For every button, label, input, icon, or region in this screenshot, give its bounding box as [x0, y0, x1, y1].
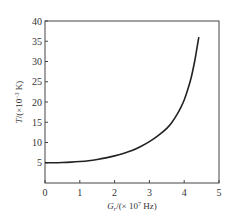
x-axis-label: Gr/(× 107 Hz): [107, 201, 156, 212]
y-tick-label: 25: [32, 76, 42, 87]
y-tick-label: 30: [32, 56, 42, 67]
y-tick-label: 35: [32, 36, 42, 47]
y-axis-ticks: 510152025303540: [32, 16, 48, 169]
x-tick-label: 0: [43, 187, 48, 198]
y-tick-label: 40: [32, 16, 42, 27]
x-tick-label: 5: [217, 187, 222, 198]
line-chart: 510152025303540 012345 T/(×10−3 K) Gr/(×…: [0, 0, 235, 222]
y-tick-label: 10: [32, 137, 42, 148]
data-curve: [45, 37, 199, 163]
x-tick-label: 3: [147, 187, 152, 198]
x-tick-label: 4: [182, 187, 187, 198]
y-tick-label: 5: [37, 157, 42, 168]
plot-frame: [45, 21, 219, 183]
y-tick-label: 15: [32, 117, 42, 128]
x-tick-label: 1: [77, 187, 82, 198]
y-axis-label: T/(×10−3 K): [14, 81, 24, 124]
y-tick-label: 20: [32, 97, 42, 108]
x-tick-label: 2: [112, 187, 117, 198]
